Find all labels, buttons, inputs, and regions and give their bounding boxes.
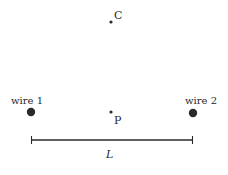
wire-1-dot	[27, 108, 35, 116]
point-p-label: P	[114, 114, 122, 127]
point-p-dot	[109, 110, 112, 113]
wire-2-dot	[189, 109, 197, 117]
wire-1-label: wire 1	[11, 95, 43, 106]
point-c-label: C	[114, 9, 122, 22]
dimension-label-l: L	[105, 148, 113, 161]
diagram-canvas: C wire 1 wire 2 P L	[0, 0, 228, 175]
wire-2-label: wire 2	[185, 95, 217, 106]
dimension-line-l	[31, 136, 193, 144]
point-c-dot	[109, 20, 112, 23]
